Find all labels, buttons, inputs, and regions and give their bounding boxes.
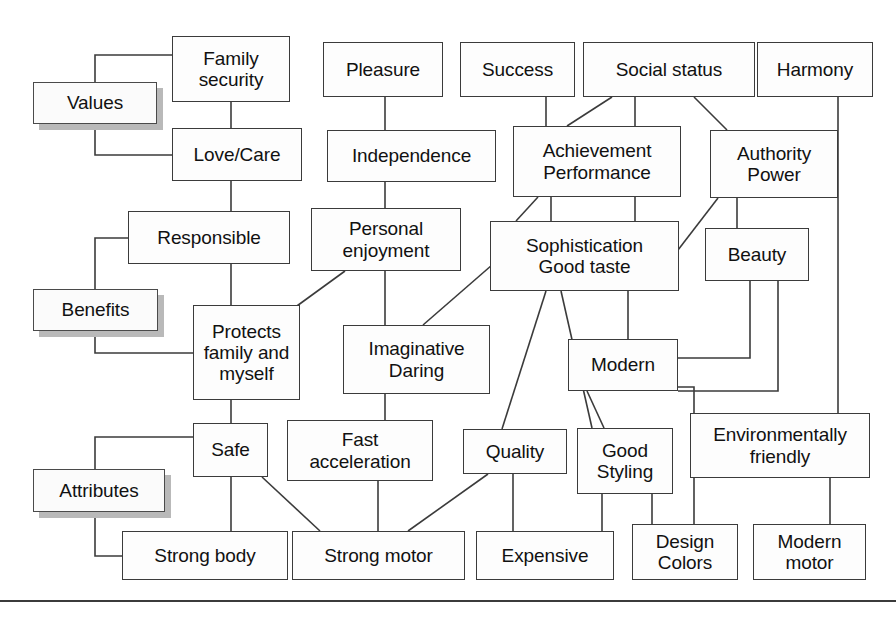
node-harmony[interactable]: Harmony	[757, 42, 873, 97]
edge-attributes-safe	[95, 437, 193, 469]
node-label: Love/Care	[190, 144, 285, 165]
edge-imaginative-sophistication	[423, 265, 492, 325]
node-label: Independence	[348, 145, 475, 166]
node-achievement-performance[interactable]: Achievement Performance	[513, 126, 681, 197]
node-label: Harmony	[773, 59, 857, 80]
node-label: Good Styling	[593, 440, 657, 483]
node-label: Personal enjoyment	[339, 218, 434, 261]
edge-quality-strong-motor	[408, 474, 488, 531]
node-good-styling[interactable]: Good Styling	[577, 428, 673, 494]
edge-sophistication-quality	[502, 291, 546, 429]
node-label: Modern	[587, 354, 659, 375]
level-label-benefits: Benefits	[58, 299, 134, 320]
node-label: Fast acceleration	[305, 429, 414, 472]
edge-benefits-responsible	[95, 238, 128, 289]
node-personal-enjoyment[interactable]: Personal enjoyment	[311, 208, 461, 271]
node-responsible[interactable]: Responsible	[128, 211, 290, 264]
edge-beauty-modern-lower	[678, 281, 778, 391]
node-imaginative-daring[interactable]: Imaginative Daring	[343, 325, 490, 394]
node-modern-motor[interactable]: Modern motor	[753, 524, 866, 580]
node-expensive[interactable]: Expensive	[476, 531, 614, 580]
node-label: Strong motor	[320, 545, 437, 566]
node-success[interactable]: Success	[460, 42, 575, 97]
edge-social-status-achievement-diag	[567, 97, 612, 126]
node-label: Authority Power	[733, 143, 815, 186]
level-box-attributes[interactable]: Attributes	[33, 469, 165, 512]
edge-safe-strong-motor	[262, 477, 320, 531]
node-label: Sophistication Good taste	[522, 235, 647, 278]
node-label: Responsible	[153, 227, 264, 248]
node-sophistication-good-taste[interactable]: Sophistication Good taste	[490, 221, 679, 291]
node-quality[interactable]: Quality	[463, 429, 567, 474]
node-label: Quality	[482, 441, 548, 462]
node-label: Safe	[207, 439, 254, 460]
node-strong-motor[interactable]: Strong motor	[292, 531, 465, 580]
node-label: Environmentally friendly	[709, 424, 851, 467]
level-label-values: Values	[63, 92, 127, 113]
edge-social-status-authority	[694, 97, 727, 130]
edge-achievement-sophistication-diag	[516, 197, 538, 221]
node-independence[interactable]: Independence	[327, 130, 496, 182]
footer-rule	[0, 600, 896, 602]
node-authority-power[interactable]: Authority Power	[710, 130, 838, 198]
edge-values-love-care	[95, 124, 172, 155]
node-label: Success	[478, 59, 557, 80]
node-label: Modern motor	[774, 531, 846, 574]
node-social-status[interactable]: Social status	[583, 42, 755, 97]
level-label-attributes: Attributes	[55, 480, 142, 501]
edge-attributes-strong-body	[95, 512, 122, 556]
diagram-canvas: Values Benefits Attributes Family securi…	[0, 0, 896, 624]
edge-modern-good-styling	[587, 391, 604, 428]
node-label: Family security	[195, 48, 268, 91]
node-label: Design Colors	[652, 531, 719, 574]
node-protects-family-and-myself[interactable]: Protects family and myself	[193, 305, 300, 400]
node-beauty[interactable]: Beauty	[705, 228, 809, 281]
node-pleasure[interactable]: Pleasure	[323, 42, 443, 97]
node-design-colors[interactable]: Design Colors	[632, 524, 738, 580]
level-box-benefits[interactable]: Benefits	[33, 289, 158, 331]
node-label: Imaginative Daring	[364, 338, 468, 381]
edge-modern-beauty	[678, 281, 750, 358]
edge-benefits-protects	[95, 331, 193, 353]
node-label: Pleasure	[342, 59, 424, 80]
node-strong-body[interactable]: Strong body	[122, 531, 288, 580]
node-label: Achievement Performance	[539, 140, 656, 183]
node-environmentally-friendly[interactable]: Environmentally friendly	[690, 413, 870, 478]
level-box-values[interactable]: Values	[33, 82, 157, 124]
node-label: Strong body	[150, 545, 259, 566]
node-label: Protects family and myself	[200, 321, 294, 385]
node-family-security[interactable]: Family security	[172, 36, 290, 102]
node-modern[interactable]: Modern	[568, 339, 678, 391]
node-label: Social status	[612, 59, 726, 80]
node-fast-acceleration[interactable]: Fast acceleration	[287, 420, 433, 481]
node-love-care[interactable]: Love/Care	[172, 128, 302, 181]
edge-values-family-security	[95, 55, 172, 82]
node-label: Beauty	[724, 244, 791, 265]
node-safe[interactable]: Safe	[193, 423, 268, 477]
node-label: Expensive	[498, 545, 593, 566]
